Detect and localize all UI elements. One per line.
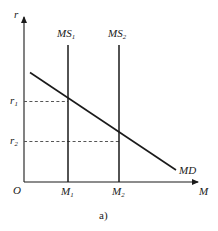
x-tick-label-m2: M2 (112, 186, 125, 197)
curve-label-ms1: MS1 (57, 28, 75, 39)
curve-label-ms2: MS2 (108, 28, 126, 39)
x-tick-label-m1: M1 (61, 186, 74, 197)
y-tick-label-r1: r1 (10, 95, 18, 106)
figure-caption: a) (99, 210, 108, 221)
y-tick-label-r2: r2 (10, 135, 18, 146)
origin-label: O (13, 185, 21, 196)
y-axis-label: r (14, 9, 18, 20)
money-market-figure: r M O r1 r2 M1 M2 MS1 MS2 MD a) (0, 0, 218, 231)
curve-label-md: MD (179, 165, 196, 176)
x-axis-label: M (199, 186, 208, 197)
curve-md (30, 73, 176, 171)
